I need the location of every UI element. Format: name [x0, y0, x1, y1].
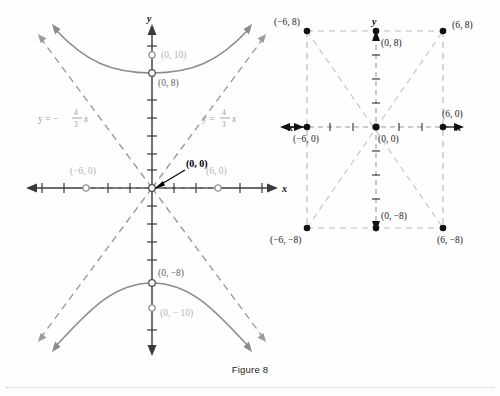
label-6-0-right: (6, 0) [442, 109, 463, 120]
point-0-8-right [373, 28, 380, 35]
svg-text:x: x [83, 114, 89, 124]
asymptote-label-negative: y = − 4 3 x [38, 108, 89, 129]
figure-page: y x (0, 10) (0, 8) (0, 0) (−6, 0) (6, 0)… [0, 0, 500, 396]
asymptote-neg-numerator: 4 [74, 108, 78, 117]
label-0-8-right: (0, 8) [381, 38, 402, 49]
point-origin-left [149, 185, 156, 192]
point-origin-right [372, 123, 379, 130]
point-0-neg10 [149, 305, 155, 311]
point-6-0-right [440, 124, 447, 131]
svg-text:x: x [231, 114, 237, 124]
hyperbola-graph: y x (0, 10) (0, 8) (0, 0) (−6, 0) (6, 0)… [0, 0, 290, 360]
label-neg6-0: (−6, 0) [70, 166, 96, 177]
label-6-neg8: (6, −8) [437, 235, 463, 246]
point-0-10 [149, 52, 155, 58]
point-neg6-0-right [304, 124, 311, 131]
y-axis-label-left: y [146, 13, 152, 24]
label-0-neg8-right: (0, −8) [381, 211, 407, 222]
point-6-0 [215, 185, 221, 191]
label-origin-left: (0, 0) [186, 158, 208, 170]
point-6-neg8 [440, 225, 447, 232]
label-neg6-0-right: (−6, 0) [293, 134, 319, 145]
label-6-8: (6, 8) [452, 20, 473, 31]
label-neg6-8: (−6, 8) [274, 17, 300, 28]
label-0-neg8: (0, −8) [158, 268, 184, 279]
rectangle-construction-graph: y x x (−6, 8) (6, 8) (0, 8) (−6, 0) (0, … [260, 0, 500, 340]
label-0-neg10: (0, − 10) [160, 308, 193, 319]
x-axis-label-right-outer: x [287, 122, 293, 133]
svg-text:y =: y = [202, 114, 214, 124]
asymptote-pos-numerator: 4 [222, 108, 226, 117]
label-6-0: (6, 0) [206, 166, 227, 177]
point-neg6-neg8 [304, 225, 311, 232]
figure-caption: Figure 8 [0, 364, 500, 375]
label-origin-right: (0, 0) [378, 134, 399, 145]
asymptote-label-positive: y = 4 3 x [202, 108, 237, 129]
point-0-8 [149, 70, 156, 77]
point-0-neg8 [149, 280, 156, 287]
point-0-neg8-right [373, 225, 380, 232]
label-neg6-neg8: (−6, −8) [270, 235, 301, 246]
origin-callout-arrow [154, 170, 185, 189]
label-0-10: (0, 10) [161, 50, 186, 61]
point-neg6-8 [304, 28, 311, 35]
label-0-8: (0, 8) [158, 78, 179, 89]
bottom-divider [6, 387, 494, 388]
y-axis-label-right: y [371, 16, 377, 27]
x-axis-label-right: x [455, 122, 461, 133]
asymptote-neg-denominator: 3 [74, 120, 78, 129]
point-neg6-0 [83, 185, 89, 191]
svg-text:y = −: y = − [38, 114, 58, 124]
asymptote-pos-denominator: 3 [222, 120, 226, 129]
point-6-8 [440, 28, 447, 35]
